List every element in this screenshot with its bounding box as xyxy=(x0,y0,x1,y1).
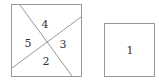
region-label-3: 3 xyxy=(60,38,67,51)
left-square-group: 4 5 3 2 xyxy=(12,5,82,77)
diagram-canvas: 4 5 3 2 1 xyxy=(0,0,159,84)
region-label-4: 4 xyxy=(42,18,49,31)
region-label-2: 2 xyxy=(43,55,50,68)
region-label-1: 1 xyxy=(127,44,134,57)
right-square-group: 1 xyxy=(105,24,155,77)
region-label-5: 5 xyxy=(25,37,32,50)
